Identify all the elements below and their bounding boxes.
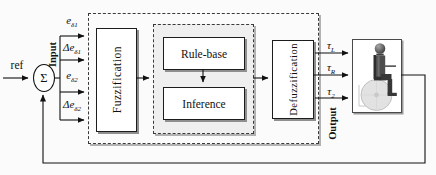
rule-base-label: Rule-base [181,48,227,60]
output-group-text: Output [327,107,338,140]
label-base: Δe [63,98,74,110]
label-sub: δ2 [74,105,81,113]
fuzzification-label: Fuzzification [111,46,123,113]
label-sub: δ1 [71,21,78,29]
input-signal-label-3: eδ2 [58,70,86,84]
wheelchair-rider-icon [353,40,401,112]
output-signal-label-2: τR [319,62,343,76]
inference-label: Inference [182,98,225,110]
input-group-text: Input [47,42,58,67]
defuzzification-label: Defuzzification [288,43,299,116]
label-base: Δe [63,41,74,53]
fuzzification-block: Fuzzification [96,28,137,132]
input-signal-label-4: Δeδ2 [57,99,87,113]
label-sub: δ1 [74,48,81,56]
output-signal-label-3: τ2 [319,86,343,100]
input-signal-label-1: eδ1 [58,15,86,29]
output-group-label: Output [327,105,338,143]
plant-box [352,39,402,113]
output-signal-label-1: τL [319,40,343,54]
rule-base-block: Rule-base [163,37,245,70]
label-sub: L [331,46,335,54]
label-sub: 2 [331,92,335,100]
inference-block: Inference [163,87,245,120]
reference-label: ref [4,60,30,72]
input-signal-label-2: Δeδ1 [57,42,87,56]
defuzzification-block: Defuzzification [272,40,314,119]
label-sub: δ2 [71,76,78,84]
sigma-symbol: Σ [40,71,47,86]
fuzzy-control-block-diagram: Fuzzification Rule-base Inference Defuzz… [0,0,436,175]
input-group-label: Input [47,39,58,71]
label-sub: R [331,68,335,76]
